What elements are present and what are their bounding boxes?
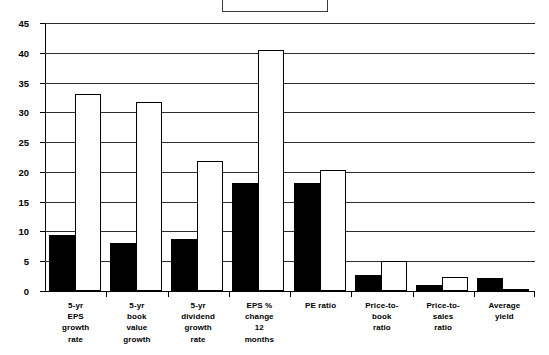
category-label-line: PE ratio: [290, 300, 351, 311]
x-axis-tick: [290, 291, 291, 297]
category-label: Price-to-salesratio: [413, 300, 474, 334]
category-label-line: EPS %: [229, 300, 290, 311]
y-axis-label: 25: [18, 137, 29, 148]
bar: [136, 102, 162, 291]
category-label-line: growth: [106, 334, 167, 345]
category-label-line: yield: [474, 311, 535, 322]
category-labels: 5-yrEPSgrowthrate5-yrbookvaluegrowth5-yr…: [45, 300, 535, 352]
category-label-line: 5-yr: [45, 300, 106, 311]
category-label-line: growth: [168, 322, 229, 333]
category-label: EPS %change12months: [229, 300, 290, 345]
category-label: Price-to-bookratio: [351, 300, 412, 334]
bar: [110, 243, 136, 291]
category-label-line: value: [106, 322, 167, 333]
x-axis-tick: [534, 291, 535, 297]
y-axis-label: 0: [24, 286, 29, 297]
category-label-line: book: [351, 311, 412, 322]
category-label-line: rate: [45, 334, 106, 345]
y-axis-label: 45: [18, 18, 29, 29]
bar: [171, 239, 197, 291]
x-axis-tick: [474, 291, 475, 297]
bar: [320, 170, 346, 291]
category-label-line: months: [229, 334, 290, 345]
x-axis-tick: [229, 291, 230, 297]
category-label: Averageyield: [474, 300, 535, 322]
x-axis-tick: [413, 291, 414, 297]
category-label-line: 12: [229, 322, 290, 333]
category-label-line: growth: [45, 322, 106, 333]
category-label-line: EPS: [45, 311, 106, 322]
category-label-line: Average: [474, 300, 535, 311]
bar: [416, 285, 442, 291]
bar-chart: 051015202530354045 5-yrEPSgrowthrate5-yr…: [0, 0, 549, 355]
y-axis-label: 15: [18, 196, 29, 207]
bar: [442, 277, 468, 291]
bar: [503, 289, 529, 291]
category-label: 5-yrbookvaluegrowth: [106, 300, 167, 345]
y-axis-label: 30: [18, 107, 29, 118]
x-axis-tick: [351, 291, 352, 297]
bar: [75, 94, 101, 291]
bar: [258, 50, 284, 291]
bar: [477, 278, 503, 291]
category-label: PE ratio: [290, 300, 351, 311]
category-label-line: Price-to-: [413, 300, 474, 311]
bar: [355, 275, 381, 291]
bar: [381, 261, 407, 291]
category-label-line: ratio: [351, 322, 412, 333]
y-axis-label: 20: [18, 166, 29, 177]
bar: [294, 183, 320, 291]
plot-area: 051015202530354045: [45, 23, 535, 291]
category-label-line: dividend: [168, 311, 229, 322]
category-label-line: Price-to-: [351, 300, 412, 311]
bar: [197, 161, 223, 291]
y-axis-label: 40: [18, 47, 29, 58]
category-label-line: rate: [168, 334, 229, 345]
x-axis-tick: [106, 291, 107, 297]
y-axis-label: 5: [24, 256, 29, 267]
y-axis-label: 10: [18, 226, 29, 237]
category-label-line: change: [229, 311, 290, 322]
bar: [232, 183, 258, 291]
bar: [49, 235, 75, 291]
x-axis-tick: [168, 291, 169, 297]
y-axis-label: 35: [18, 77, 29, 88]
category-label-line: 5-yr: [106, 300, 167, 311]
legend-box: [222, 0, 328, 12]
category-label-line: ratio: [413, 322, 474, 333]
category-label: 5-yrdividendgrowthrate: [168, 300, 229, 345]
category-label-line: sales: [413, 311, 474, 322]
category-label: 5-yrEPSgrowthrate: [45, 300, 106, 345]
bars-layer: [45, 23, 535, 292]
category-label-line: 5-yr: [168, 300, 229, 311]
category-label-line: book: [106, 311, 167, 322]
